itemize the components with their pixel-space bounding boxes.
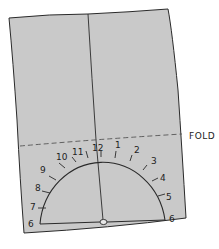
label-5: 5 — [166, 192, 172, 202]
label-6-right: 6 — [169, 214, 175, 224]
protractor-fold-diagram: FOLD 6 7 8 9 10 11 12 1 2 3 4 5 6 — [0, 0, 219, 249]
label-3: 3 — [151, 156, 157, 166]
label-12: 12 — [92, 143, 103, 153]
label-4: 4 — [160, 173, 166, 183]
pivot-pin — [100, 219, 107, 224]
fold-label: FOLD — [189, 131, 215, 141]
label-6-left: 6 — [28, 219, 34, 229]
label-9: 9 — [40, 165, 46, 175]
label-11: 11 — [72, 147, 83, 157]
label-1: 1 — [115, 140, 121, 150]
label-8: 8 — [35, 183, 41, 193]
label-10: 10 — [56, 152, 68, 162]
label-2: 2 — [134, 145, 140, 155]
label-7: 7 — [30, 202, 36, 212]
